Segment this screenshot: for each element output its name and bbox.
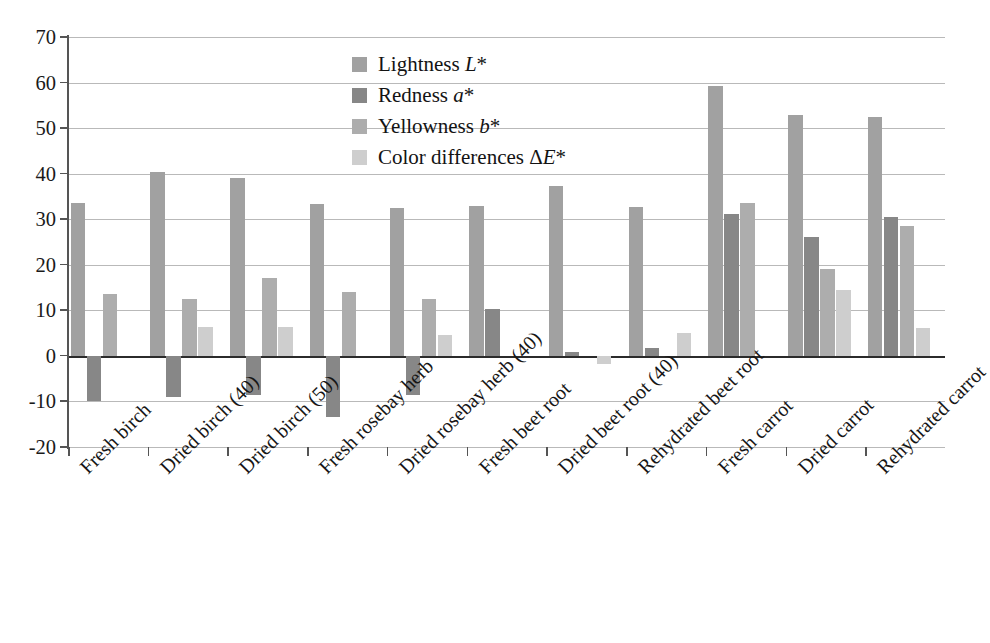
y-tick-label: -10 — [29, 391, 56, 412]
bar — [629, 207, 644, 356]
bar — [724, 214, 739, 356]
y-tick-mark — [60, 127, 68, 129]
legend-item[interactable]: Yellowness b* — [352, 114, 566, 139]
bar — [804, 237, 819, 356]
x-tick-mark — [387, 447, 389, 456]
bar — [87, 356, 102, 402]
bar — [597, 356, 612, 364]
chart-legend: Lightness L*Redness a*Yellowness b*Color… — [352, 52, 566, 170]
bar — [884, 217, 899, 356]
bar — [71, 203, 86, 356]
bar-group — [786, 37, 866, 447]
bar-group — [68, 37, 148, 447]
x-tick-mark — [546, 447, 548, 456]
legend-swatch — [352, 88, 367, 103]
bar — [342, 292, 357, 356]
y-tick-label: 50 — [36, 118, 57, 139]
x-tick-mark — [148, 447, 150, 456]
legend-label: Color differences ΔE* — [378, 147, 566, 168]
x-tick-mark — [307, 447, 309, 456]
bar — [788, 115, 803, 356]
bar — [390, 208, 405, 356]
legend-item[interactable]: Color differences ΔE* — [352, 145, 566, 170]
bar — [549, 186, 564, 355]
bar — [310, 204, 325, 356]
bar-group — [148, 37, 228, 447]
y-tick-mark — [60, 82, 68, 84]
legend-label: Lightness L* — [378, 54, 487, 75]
bar — [278, 327, 293, 356]
bar — [868, 117, 883, 356]
legend-label: Yellowness b* — [378, 116, 500, 137]
y-tick-label: 0 — [46, 346, 56, 367]
legend-swatch — [352, 57, 367, 72]
y-tick-label: 70 — [36, 27, 57, 48]
y-tick-mark — [60, 264, 68, 266]
bar — [820, 269, 835, 356]
y-tick-mark — [60, 218, 68, 220]
x-tick-mark — [786, 447, 788, 456]
y-tick-label: 10 — [36, 300, 57, 321]
bar — [422, 299, 437, 356]
y-tick-label: 40 — [36, 163, 57, 184]
legend-swatch — [352, 119, 367, 134]
bar — [230, 178, 245, 356]
legend-item[interactable]: Lightness L* — [352, 52, 566, 77]
bar — [469, 206, 484, 355]
legend-label: Redness a* — [378, 85, 474, 106]
y-tick-label: 20 — [36, 255, 57, 276]
legend-item[interactable]: Redness a* — [352, 83, 566, 108]
y-axis-bottom-cap — [60, 446, 69, 448]
bar — [565, 352, 580, 356]
bar — [103, 294, 118, 356]
bar — [900, 226, 915, 356]
bar-group — [865, 37, 945, 447]
bar — [150, 172, 165, 356]
x-tick-mark — [865, 447, 867, 456]
x-tick-mark — [626, 447, 628, 456]
bar — [485, 309, 500, 355]
x-tick-mark — [467, 447, 469, 456]
bar — [677, 333, 692, 356]
bar — [198, 327, 213, 356]
legend-swatch — [352, 150, 367, 165]
bar — [708, 86, 723, 356]
y-tick-label: 30 — [36, 209, 57, 230]
y-tick-mark — [60, 173, 68, 175]
bar — [645, 348, 660, 356]
x-tick-mark — [227, 447, 229, 456]
y-axis-top-cap — [60, 36, 69, 38]
bar — [262, 278, 277, 355]
y-tick-mark — [60, 400, 68, 402]
bar — [166, 356, 181, 397]
x-tick-mark — [706, 447, 708, 456]
bar — [916, 328, 931, 356]
bar — [182, 299, 197, 356]
y-tick-label: -20 — [29, 437, 56, 458]
y-axis-line — [67, 35, 69, 449]
y-tick-label: 60 — [36, 72, 57, 93]
y-tick-mark — [60, 309, 68, 311]
bar — [836, 290, 851, 356]
bar — [438, 335, 453, 356]
bar — [740, 203, 755, 356]
y-tick-mark — [60, 355, 68, 357]
